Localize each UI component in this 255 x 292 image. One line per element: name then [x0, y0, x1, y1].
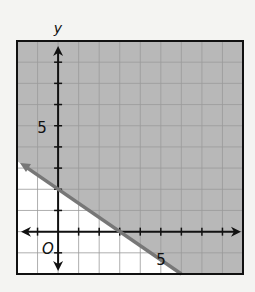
inequality-graph: y O 5 5 — [0, 0, 255, 292]
y-tick-label-5: 5 — [37, 119, 47, 137]
x-tick-label-5: 5 — [156, 251, 166, 269]
origin-label: O — [42, 240, 54, 258]
y-axis-label: y — [53, 20, 63, 36]
